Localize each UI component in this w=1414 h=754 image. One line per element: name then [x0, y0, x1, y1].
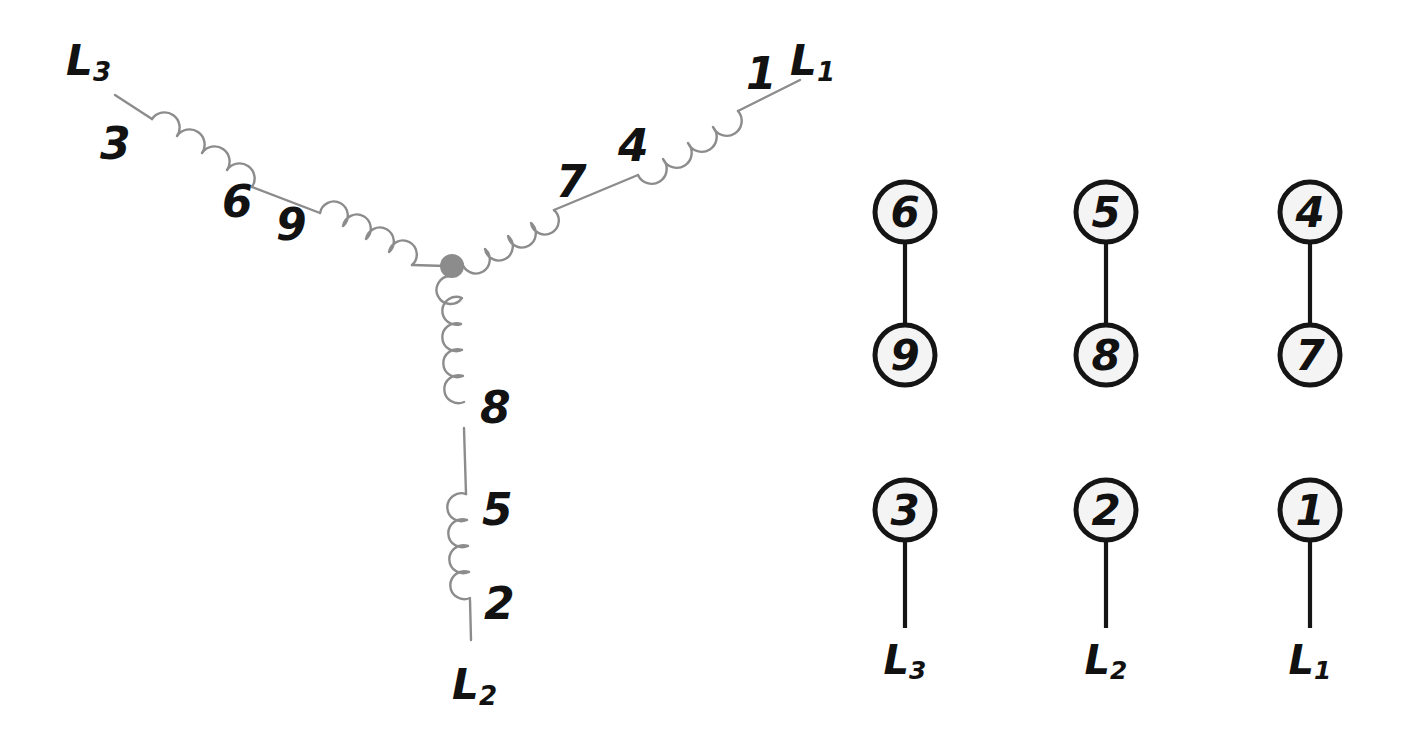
terminal-phase-label-l2: L2	[1085, 640, 1128, 680]
terminal-phase-l3-main: L	[884, 637, 910, 683]
terminal-label-2: 2	[1091, 490, 1120, 532]
terminal-phase-l1-sub: 1	[1314, 656, 1331, 685]
terminal-label-5: 5	[1091, 192, 1120, 234]
terminal-phase-l1-main: L	[1289, 637, 1315, 683]
terminal-label-3: 3	[890, 490, 919, 532]
terminal-label-6: 6	[890, 192, 919, 234]
terminal-phase-l2-sub: 2	[1110, 656, 1127, 685]
terminal-label-7: 7	[1295, 335, 1324, 377]
winding-diagram-canvas: 3 6 9 7 4 1 8 5 2 L3 L1 L2 6	[0, 0, 1414, 754]
terminal-phase-label-l3: L3	[884, 640, 927, 680]
terminal-phase-l3-sub: 3	[909, 656, 926, 685]
terminal-phase-label-l1: L1	[1289, 640, 1332, 680]
terminal-label-1: 1	[1295, 490, 1324, 532]
terminal-label-9: 9	[890, 335, 919, 377]
terminal-label-8: 8	[1091, 335, 1120, 377]
terminal-board-layer	[0, 0, 1414, 754]
terminal-label-4: 4	[1295, 192, 1324, 234]
terminal-phase-l2-main: L	[1085, 637, 1111, 683]
